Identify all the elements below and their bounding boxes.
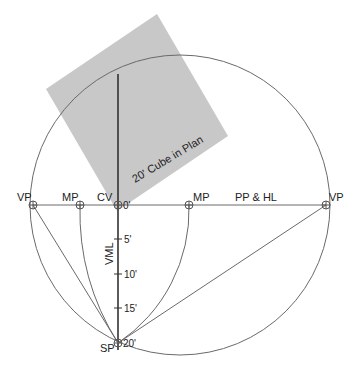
label-sp: SP: [100, 342, 115, 354]
label-vp-right: VP: [329, 191, 344, 203]
label-mp-right: MP: [193, 191, 210, 203]
tick-label-5: 5': [124, 234, 132, 245]
measuring-arc-left: [80, 205, 118, 343]
label-vml: VML: [103, 242, 115, 265]
sightline-right: [118, 205, 326, 343]
sightline-left: [33, 205, 118, 343]
perspective-diagram: VP MP CV MP PP & HL VP SP 0' 5' 10' 15' …: [0, 0, 360, 378]
label-cv: CV: [97, 191, 113, 203]
tick-label-15: 15': [124, 303, 137, 314]
tick-label-20: 20': [123, 338, 136, 349]
label-vp-left: VP: [17, 191, 32, 203]
label-pp-hl: PP & HL: [235, 191, 277, 203]
point-marker-mp-right: [185, 201, 193, 209]
tick-label-0: 0': [123, 200, 131, 211]
tick-label-10: 10': [124, 269, 137, 280]
label-mp-left: MP: [62, 191, 79, 203]
